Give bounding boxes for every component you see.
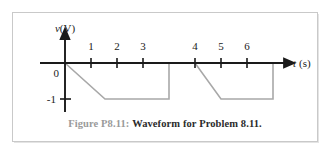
x-tick-label-5: 5 xyxy=(218,40,224,52)
origin-label: 0 xyxy=(54,67,60,79)
x-tick-label-3: 3 xyxy=(140,40,146,52)
figure-caption-label: Figure P8.11: xyxy=(68,118,129,129)
x-axis-label: t(s) xyxy=(293,57,311,70)
x-tick-label-6: 6 xyxy=(244,40,250,52)
waveform-trace xyxy=(65,63,273,99)
x-tick-label-1: 1 xyxy=(88,40,94,52)
y-tick-label-minus1: -1 xyxy=(47,93,56,105)
figure-caption: Figure P8.11: Waveform for Problem 8.11. xyxy=(12,118,318,129)
x-tick-label-2: 2 xyxy=(114,40,120,52)
x-axis-unit: (s) xyxy=(299,57,311,70)
x-tick-label-4: 4 xyxy=(192,40,198,52)
figure-caption-text: Waveform for Problem 8.11. xyxy=(132,118,262,129)
figure-page: 1 2 3 4 5 6 -1 0 v(V) t(s) Figure P8.11:… xyxy=(0,0,333,156)
y-axis-label: v(V) xyxy=(55,22,75,35)
y-axis-unit: (V) xyxy=(60,22,76,35)
x-axis-symbol: t xyxy=(293,57,297,69)
